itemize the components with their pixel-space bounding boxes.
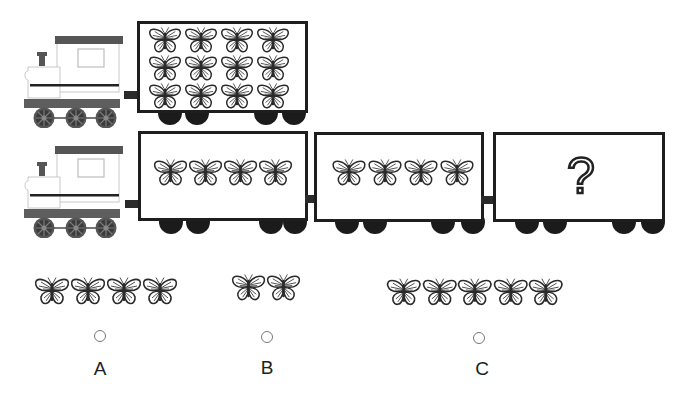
locomotive-icon	[22, 28, 132, 128]
butterfly-icon	[266, 273, 301, 302]
coupler	[125, 200, 139, 208]
wagon-box	[314, 132, 484, 222]
butterfly-icon	[34, 276, 70, 306]
option-c-radio[interactable]	[473, 332, 485, 344]
option-c-label: C	[467, 358, 497, 380]
butterfly-icon	[403, 158, 439, 187]
butterfly-icon	[147, 82, 183, 110]
butterfly-icon	[331, 158, 367, 187]
butterfly-icon	[219, 82, 255, 110]
butterfly-icon	[258, 158, 293, 187]
butterfly-icon	[493, 277, 529, 307]
option-a-label: A	[85, 358, 115, 380]
butterfly-grid-12	[147, 26, 292, 110]
butterfly-icon	[188, 158, 223, 187]
butterfly-icon	[183, 82, 219, 110]
butterfly-icon	[231, 273, 266, 302]
option-b-butterflies	[231, 273, 301, 302]
butterfly-icon	[147, 54, 183, 82]
option-a-radio[interactable]	[94, 330, 106, 342]
butterfly-icon	[219, 54, 255, 82]
butterfly-icon	[367, 158, 403, 187]
butterfly-icon	[255, 54, 291, 82]
option-b-radio[interactable]	[261, 331, 273, 343]
locomotive-icon	[22, 138, 132, 238]
butterfly-icon	[439, 158, 475, 187]
butterfly-icon	[183, 26, 219, 54]
butterfly-icon	[422, 277, 458, 307]
butterfly-icon	[70, 276, 106, 306]
butterfly-icon	[147, 26, 183, 54]
option-b-label: B	[252, 357, 282, 379]
butterfly-icon	[255, 82, 291, 110]
butterfly-row-4	[153, 158, 293, 187]
wagon-box	[138, 131, 308, 221]
wagon-box	[137, 21, 308, 113]
option-a-butterflies	[34, 276, 178, 306]
question-mark-icon: ?	[567, 151, 595, 201]
butterfly-row-4	[331, 158, 475, 187]
butterfly-icon	[142, 276, 178, 306]
option-c-butterflies	[386, 277, 564, 307]
butterfly-icon	[153, 158, 188, 187]
butterfly-icon	[106, 276, 142, 306]
wagon-box: ?	[493, 132, 665, 222]
butterfly-icon	[219, 26, 255, 54]
butterfly-icon	[386, 277, 422, 307]
butterfly-icon	[457, 277, 493, 307]
butterfly-icon	[183, 54, 219, 82]
butterfly-icon	[223, 158, 258, 187]
butterfly-icon	[255, 26, 291, 54]
coupler	[124, 91, 138, 99]
butterfly-icon	[528, 277, 564, 307]
